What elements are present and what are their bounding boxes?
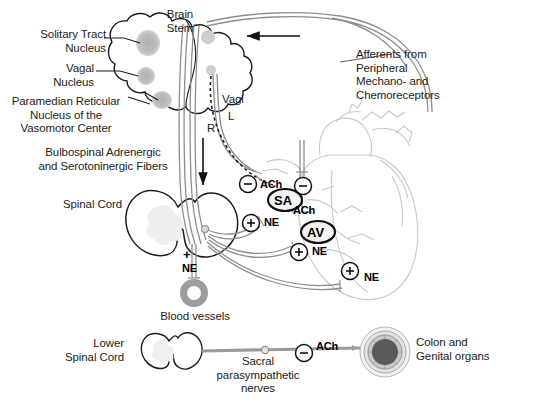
vagal-nucleus-shape: [137, 67, 155, 85]
label-vagi: Vagi: [222, 93, 264, 107]
label-blood-vessels: Blood vessels: [144, 310, 246, 324]
pelvic-organ-graphic: [360, 327, 410, 377]
label-brain-stem: Brain Stem: [152, 8, 208, 35]
label-bulbospinal-fibers: Bulbospinal Adrenergic and Serotoninergi…: [16, 146, 190, 173]
neurotransmitter-ne-vessels: NE: [182, 262, 197, 274]
label-vagal-nucleus: Vagal Nucleus: [2, 62, 94, 89]
label-vagus-left: L: [228, 110, 242, 124]
label-paramedian-reticular-nucleus: Paramedian Reticular Nucleus of the Vaso…: [2, 95, 130, 136]
neurotransmitter-ne-av: NE: [312, 245, 327, 257]
neurotransmitter-ne-myocardium: NE: [364, 271, 379, 283]
paramedian-reticular-nucleus-shape: [152, 91, 172, 109]
sympathetic-ganglion: [202, 226, 209, 233]
label-lower-spinal-cord: Lower Spinal Cord: [46, 337, 124, 364]
sa-node-label: SA: [274, 193, 292, 208]
neurotransmitter-ne-sa: NE: [264, 216, 279, 228]
blood-vessel-graphic: [180, 279, 208, 307]
lower-spinal-cord-graphic: [141, 333, 202, 369]
relay-nucleus-lower: [206, 65, 216, 75]
plus-sign-ne-vessels: +: [183, 248, 191, 261]
label-colon-genital-organs: Colon and Genital organs: [416, 336, 532, 363]
label-solitary-tract-nucleus: Solitary Tract Nucleus: [2, 28, 106, 55]
neurotransmitter-ach-sa: ACh: [260, 178, 282, 190]
neurotransmitter-ach-pelvic: ACh: [316, 340, 338, 352]
sacral-nerve-terminal: [352, 345, 358, 351]
autonomic-control-diagram: Solitary Tract Nucleus Vagal Nucleus Par…: [0, 0, 539, 405]
label-afferents: Afferents from Peripheral Mechano- and C…: [356, 48, 524, 102]
blood-vessel-lumen: [187, 286, 201, 300]
label-spinal-cord: Spinal Cord: [34, 198, 122, 212]
av-node-label: AV: [307, 225, 324, 240]
pelvic-ganglion: [261, 346, 268, 353]
label-sacral-parasympathetic-nerves: Sacral parasympathetic nerves: [196, 355, 320, 396]
neurotransmitter-ach-av: ACh: [293, 204, 315, 216]
label-vagus-right: R: [207, 122, 221, 136]
